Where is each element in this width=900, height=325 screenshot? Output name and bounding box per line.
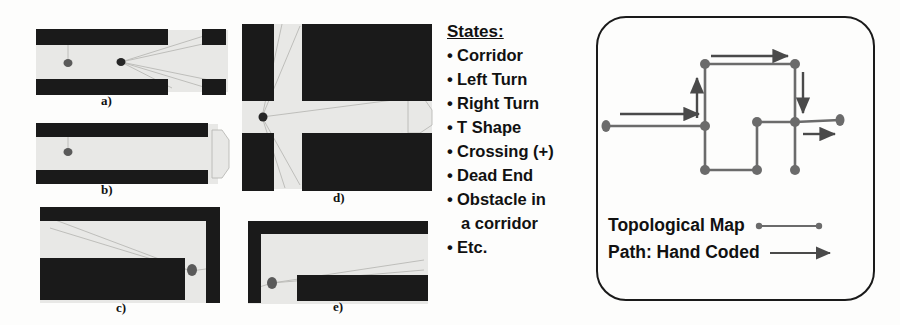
figure-e	[248, 221, 428, 304]
graph-edge	[795, 120, 840, 122]
figure-label-e: e)	[333, 299, 343, 315]
state-label: Dead End	[457, 166, 533, 184]
figure-label-b: b)	[101, 182, 113, 198]
state-item: •T Shape	[447, 115, 592, 139]
robot-marker	[187, 264, 197, 276]
graph-node	[700, 165, 710, 175]
path-arrow-symbol-icon	[768, 246, 840, 260]
bullet-icon: •	[447, 235, 457, 259]
graph-node	[790, 59, 800, 69]
state-item-continuation: a corridor	[447, 211, 592, 235]
state-item: •Crossing (+)	[447, 139, 592, 163]
figure-d	[242, 24, 432, 191]
map-legend: Topological Map Path: Hand Coded	[608, 212, 878, 266]
graph-node	[752, 117, 762, 127]
graph-node	[700, 121, 710, 131]
state-label: Corridor	[457, 46, 523, 64]
state-label: Obstacle in	[457, 190, 546, 208]
wall-d-bottomleft	[242, 133, 274, 191]
legend-row-topological-map: Topological Map	[608, 212, 878, 239]
figure-b	[36, 123, 229, 184]
robot-marker	[64, 148, 73, 156]
bullet-icon: •	[447, 43, 457, 67]
graph-edges	[606, 64, 840, 170]
states-title: States:	[447, 22, 592, 41]
figure-root: a) b) c) d) e) States: •Corridor •Left T…	[0, 0, 900, 325]
bullet-icon: •	[447, 187, 457, 211]
corridor-diagrams-svg	[0, 0, 445, 325]
wall-d-topright	[302, 24, 432, 101]
robot-marker	[117, 58, 126, 66]
bullet-icon: •	[447, 115, 457, 139]
graph-node	[790, 117, 800, 127]
state-label: Crossing (+)	[457, 142, 554, 160]
corridor-state-examples: a) b) c) d) e)	[0, 0, 445, 325]
figure-label-c: c)	[116, 300, 126, 316]
state-item: •Obstacle in	[447, 187, 592, 211]
wall-b-bottom	[36, 170, 208, 184]
robot-marker	[267, 277, 277, 289]
figure-a	[36, 29, 228, 95]
wall-a-bottom-right	[202, 79, 226, 95]
wall-e-bottom	[297, 275, 428, 301]
wall-e-left	[248, 221, 261, 303]
bullet-icon: •	[447, 91, 457, 115]
wall-e-top	[248, 221, 428, 234]
robot-marker	[259, 113, 268, 122]
topological-map-symbol-icon	[753, 219, 825, 233]
robot-marker	[64, 59, 73, 67]
state-label: a corridor	[461, 214, 538, 232]
state-item: •Etc.	[447, 235, 592, 259]
wall-a-top	[36, 29, 168, 45]
graph-node	[602, 120, 611, 132]
state-item: •Left Turn	[447, 67, 592, 91]
state-label: Right Turn	[457, 94, 539, 112]
states-list-block: States: •Corridor •Left Turn •Right Turn…	[447, 22, 592, 259]
graph-node	[790, 165, 800, 175]
graph-nodes	[602, 59, 845, 175]
wall-b-top	[36, 123, 208, 137]
graph-node	[752, 165, 762, 175]
states-items: •Corridor •Left Turn •Right Turn •T Shap…	[447, 43, 592, 259]
figure-label-d: d)	[333, 190, 345, 206]
bullet-icon: •	[447, 139, 457, 163]
state-item: •Right Turn	[447, 91, 592, 115]
state-label: T Shape	[457, 118, 521, 136]
graph-node	[836, 114, 845, 126]
wall-a-top-right	[202, 29, 226, 45]
state-label: Left Turn	[457, 70, 527, 88]
legend-label-topological-map: Topological Map	[608, 215, 745, 236]
state-item: •Dead End	[447, 163, 592, 187]
figure-label-a: a)	[101, 93, 112, 109]
wall-c-top	[40, 207, 220, 221]
state-label: Etc.	[457, 238, 487, 256]
graph-node	[700, 59, 710, 69]
bullet-icon: •	[447, 163, 457, 187]
wall-d-topleft	[242, 24, 274, 101]
figure-c	[40, 207, 220, 303]
state-item: •Corridor	[447, 43, 592, 67]
legend-label-path-hand-coded: Path: Hand Coded	[608, 242, 760, 263]
wall-c-bottom	[40, 258, 185, 300]
legend-row-path-hand-coded: Path: Hand Coded	[608, 239, 878, 266]
wall-d-bottomright	[302, 133, 432, 191]
wall-c-right	[206, 207, 220, 303]
bullet-icon: •	[447, 67, 457, 91]
